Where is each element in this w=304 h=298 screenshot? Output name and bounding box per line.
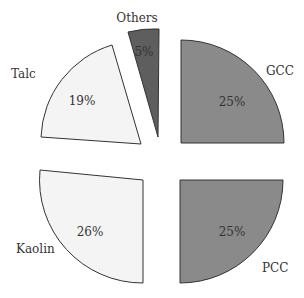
label-others: Others [116,11,157,25]
pct-pcc: 25% [219,225,246,239]
pct-others: 5% [134,45,153,59]
pie-chart: 25% 25% 26% 19% 5% GCC PCC Kaolin Talc O… [0,0,304,298]
label-pcc: PCC [262,261,288,275]
label-talc: Talc [11,67,36,81]
slice-gcc [181,40,284,143]
label-gcc: GCC [266,64,294,78]
pct-gcc: 25% [219,95,246,109]
pct-kaolin: 26% [77,225,104,239]
label-kaolin: Kaolin [16,242,55,256]
pct-talc: 19% [69,94,96,108]
